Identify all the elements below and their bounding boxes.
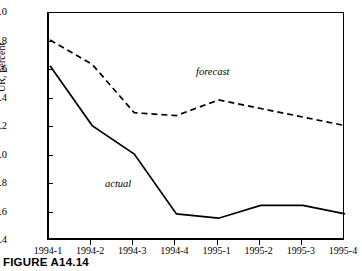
- y-tick-label: 6.0: [0, 150, 7, 160]
- y-tick-mark: [47, 69, 53, 70]
- y-tick-label: 7.0: [0, 7, 7, 17]
- plot-area: [47, 12, 344, 240]
- y-tick-label: 6.2: [0, 121, 7, 131]
- x-tick-label: 1995-4: [318, 245, 362, 257]
- actual-series-label: actual: [105, 178, 131, 189]
- y-tick-label: 6.6: [0, 64, 7, 74]
- y-tick-mark: [47, 41, 53, 42]
- y-tick-label: 6.4: [0, 93, 7, 103]
- forecast-series-label: forecast: [196, 66, 229, 77]
- actual-line: [50, 66, 345, 218]
- y-tick-mark: [47, 183, 53, 184]
- chart-svg: [49, 13, 346, 241]
- y-tick-label: 6.8: [0, 36, 7, 46]
- y-tick-label: 5.8: [0, 178, 7, 188]
- y-tick-mark: [47, 98, 53, 99]
- y-tick-label: 5.4: [0, 235, 7, 245]
- y-tick-mark: [47, 126, 53, 127]
- y-tick-label: 5.6: [0, 207, 7, 217]
- y-tick-mark: [47, 212, 53, 213]
- y-tick-mark: [47, 155, 53, 156]
- figure-caption: FIGURE A14.14: [3, 256, 89, 268]
- forecast-line: [50, 40, 345, 126]
